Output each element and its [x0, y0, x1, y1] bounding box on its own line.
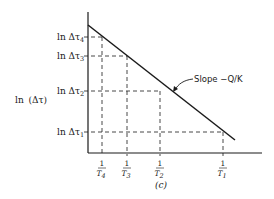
arrhenius-plot: ln (Δτ) ln Δτ4 ln Δτ3 ln Δτ2 ln Δτ1 1 T4… [0, 0, 274, 199]
y-tick-label-1: ln Δτ1 [57, 127, 84, 139]
panel-label: (c) [155, 180, 168, 190]
slope-label: Slope −Q/K [194, 74, 243, 84]
svg-text:T3: T3 [121, 169, 130, 180]
svg-text:T1: T1 [217, 169, 226, 180]
y-tick-label-4: ln Δτ4 [57, 32, 84, 44]
y-axis-label: ln (Δτ) [15, 95, 47, 105]
x-tick-label-4: 1 T4 [96, 159, 106, 180]
x-tick-label-3: 1 T3 [121, 159, 131, 180]
svg-text:T2: T2 [154, 169, 163, 180]
svg-text:1: 1 [125, 159, 130, 168]
vertical-guides [102, 37, 223, 156]
x-tick-label-1: 1 T1 [217, 159, 227, 180]
svg-text:1: 1 [158, 159, 163, 168]
horizontal-guides [84, 37, 223, 132]
svg-text:1: 1 [221, 159, 226, 168]
y-tick-label-2: ln Δτ2 [57, 86, 84, 98]
svg-text:1: 1 [100, 159, 105, 168]
y-tick-label-3: ln Δτ3 [57, 51, 84, 63]
svg-text:T4: T4 [96, 169, 105, 180]
slope-arrow [175, 79, 193, 90]
x-tick-label-2: 1 T2 [154, 159, 164, 180]
